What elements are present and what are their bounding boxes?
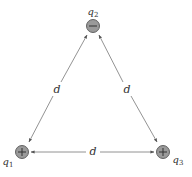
distance-label: d: [53, 83, 60, 96]
charge-label-q3: q3: [173, 154, 184, 167]
distance-label: d: [89, 145, 96, 158]
distance-q1-q2: d: [29, 35, 87, 142]
charge-q2: q2: [87, 6, 100, 33]
charge-q3: q3: [157, 146, 184, 168]
distance-label: d: [123, 83, 130, 96]
triangle-charge-diagram: d d d q2 q1 q3: [0, 0, 192, 177]
distance-q2-q3: d: [99, 35, 157, 142]
distance-q1-q3: d: [31, 145, 154, 158]
charge-q1: q1: [3, 146, 29, 170]
charge-label-q1: q1: [3, 156, 14, 169]
charge-label-q2: q2: [88, 6, 99, 19]
